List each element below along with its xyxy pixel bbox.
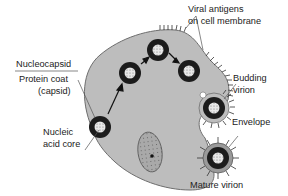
budding-label: Budding (233, 73, 267, 84)
virion-label: virion (233, 85, 255, 96)
nucleocapsid-3 (147, 39, 169, 61)
envelope-label: Envelope (232, 117, 270, 128)
nucleocapsid-2 (119, 62, 141, 84)
cell-membrane-label: on cell membrane (188, 16, 261, 27)
viral-antigens-label: Viral antigens (188, 4, 244, 15)
nucleocapsid-4 (178, 60, 200, 82)
virus-budding-diagram (0, 0, 288, 196)
nucleic-acid-label: Nucleic (43, 127, 73, 138)
capsid-label: (capsid) (38, 86, 71, 97)
nucleocapsid-label: Nucleocapsid (16, 59, 71, 70)
acid-core-label: acid core (43, 139, 80, 150)
nucleocapsid-1 (89, 116, 111, 138)
mature-virion-label: Mature virion (190, 180, 243, 191)
protein-coat-label: Protein coat (19, 74, 68, 85)
